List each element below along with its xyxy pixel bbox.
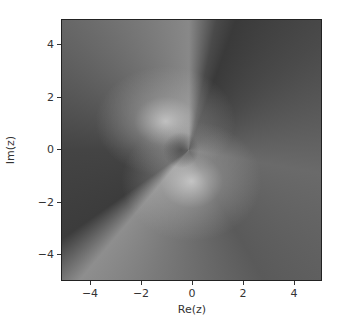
x-axis-label: Re(z) <box>178 303 206 316</box>
y-tick-label: 0 <box>24 143 54 156</box>
y-tick-label: 4 <box>24 38 54 51</box>
y-tick-mark <box>57 202 61 203</box>
y-tick-label: −2 <box>24 196 54 209</box>
x-tick-mark <box>141 281 142 285</box>
x-tick-label: −4 <box>82 287 98 300</box>
x-tick-label: 4 <box>291 287 298 300</box>
x-tick-mark <box>294 281 295 285</box>
x-tick-label: −2 <box>133 287 149 300</box>
x-tick-mark <box>90 281 91 285</box>
x-tick-label: 0 <box>189 287 196 300</box>
x-tick-label: 2 <box>240 287 247 300</box>
y-tick-mark <box>57 44 61 45</box>
y-axis-label: Im(z) <box>4 136 17 164</box>
y-tick-mark <box>57 97 61 98</box>
y-tick-mark <box>57 254 61 255</box>
y-tick-mark <box>57 149 61 150</box>
y-tick-label: 2 <box>24 91 54 104</box>
dark-center <box>62 20 321 280</box>
x-tick-mark <box>243 281 244 285</box>
y-tick-label: −4 <box>24 248 54 261</box>
x-tick-mark <box>192 281 193 285</box>
plot-area <box>61 19 322 281</box>
